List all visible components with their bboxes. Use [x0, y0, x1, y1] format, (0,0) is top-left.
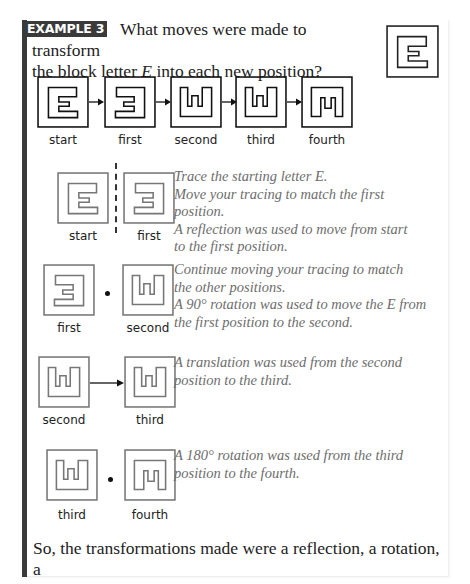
step4-label-to: fourth	[120, 508, 180, 522]
conclusion-text: So, the transformations made were a refl…	[33, 538, 443, 584]
label-first: first	[100, 133, 160, 147]
arrow-right-icon	[287, 98, 302, 106]
label-second: second	[166, 133, 226, 147]
label-fourth: fourth	[297, 133, 357, 147]
label-start: start	[33, 133, 93, 147]
rotation-center-dot	[105, 291, 110, 296]
step1-label-from: start	[53, 229, 113, 243]
reference-e-glyph	[386, 25, 439, 78]
step2-explanation: Continue moving your tracing to match th…	[174, 261, 449, 331]
step2-label-to: second	[118, 321, 178, 335]
translation-arrow-icon	[90, 379, 124, 387]
glyph-second	[170, 76, 222, 128]
step4-label-from: third	[42, 508, 102, 522]
step3-explanation: A translation was used from the second p…	[174, 354, 449, 389]
label-third: third	[231, 133, 291, 147]
step1-glyph-first	[123, 172, 175, 224]
glyph-first	[104, 76, 156, 128]
step4-glyph-fourth	[124, 449, 176, 501]
step3-label-to: third	[120, 413, 180, 427]
step1-explanation: Trace the starting letter E. Move your t…	[174, 168, 449, 256]
step1-label-to: first	[119, 229, 179, 243]
mirror-line	[115, 163, 117, 233]
arrow-right-icon	[156, 98, 171, 106]
arrow-right-icon	[89, 98, 104, 106]
step4-explanation: A 180° rotation was used from the third …	[174, 447, 449, 482]
step2-glyph-first	[43, 264, 95, 316]
step1-glyph-start	[57, 172, 109, 224]
glyph-start	[37, 76, 89, 128]
glyph-third	[235, 76, 287, 128]
step4-glyph-third	[46, 449, 98, 501]
rotation-center-dot	[108, 477, 113, 482]
step2-glyph-second	[122, 264, 174, 316]
accent-bar	[22, 20, 27, 577]
step3-glyph-third	[124, 356, 176, 408]
glyph-fourth	[301, 76, 353, 128]
step3-glyph-second	[38, 356, 90, 408]
step3-label-from: second	[34, 413, 94, 427]
step2-label-from: first	[39, 321, 99, 335]
question-text: What moves were made to transform the bl…	[32, 19, 362, 82]
question-line-1: What moves were made to transform	[32, 19, 307, 60]
